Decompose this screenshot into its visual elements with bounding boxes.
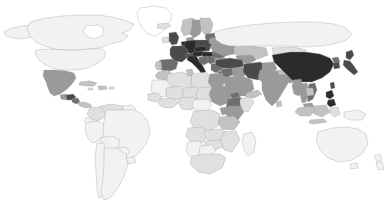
country-tasmania[interactable] (350, 163, 358, 169)
country-taiwan[interactable] (330, 82, 335, 89)
world-map-svg[interactable] (0, 0, 386, 217)
country-sri-lanka[interactable] (276, 101, 282, 107)
world-map-container[interactable] (0, 0, 386, 217)
country-puerto-rico[interactable] (109, 87, 114, 89)
country-jamaica[interactable] (88, 88, 93, 90)
country-south-korea[interactable] (333, 62, 340, 69)
country-ireland[interactable] (162, 37, 169, 43)
country-cambodia-laos[interactable] (306, 88, 314, 96)
